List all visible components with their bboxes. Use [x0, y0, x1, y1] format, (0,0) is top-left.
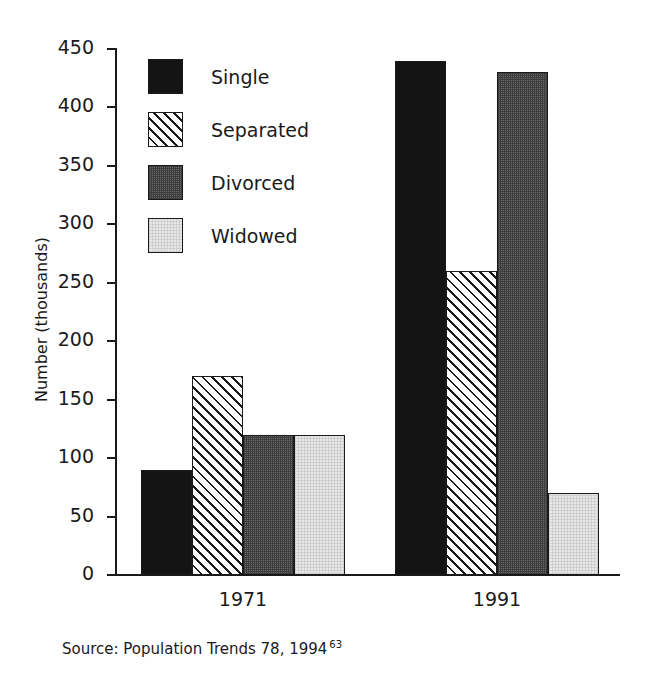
legend-swatch-separated-icon — [148, 112, 183, 147]
source-reference-number: 63 — [329, 639, 342, 650]
legend-label-divorced: Divorced — [211, 172, 295, 194]
legend-item-single[interactable]: Single — [148, 50, 309, 103]
chart-plot-area: 450 400 350 300 250 200 150 100 50 0 Num… — [0, 0, 664, 677]
bar-1971-widowed[interactable] — [294, 435, 345, 575]
source-note-text: Source: Population Trends 78, 1994 — [62, 640, 327, 658]
bar-1971-separated[interactable] — [192, 376, 243, 575]
chart-legend: Single Separated Divorced Widowed — [148, 50, 309, 262]
legend-item-divorced[interactable]: Divorced — [148, 156, 309, 209]
bar-1971-divorced[interactable] — [243, 435, 294, 575]
bar-1991-single[interactable] — [395, 61, 446, 575]
legend-item-separated[interactable]: Separated — [148, 103, 309, 156]
bar-1971-single[interactable] — [141, 470, 192, 575]
bar-1991-divorced[interactable] — [497, 72, 548, 575]
x-label-1971: 1971 — [219, 588, 267, 610]
x-label-1991: 1991 — [473, 588, 521, 610]
legend-swatch-single-icon — [148, 59, 183, 94]
source-note: Source: Population Trends 78, 199463 — [62, 639, 342, 658]
bar-1991-widowed[interactable] — [548, 493, 599, 575]
legend-label-widowed: Widowed — [211, 225, 298, 247]
legend-label-separated: Separated — [211, 119, 309, 141]
legend-item-widowed[interactable]: Widowed — [148, 209, 309, 262]
bar-1991-separated[interactable] — [446, 271, 497, 575]
legend-label-single: Single — [211, 66, 269, 88]
legend-swatch-divorced-icon — [148, 165, 183, 200]
bars-layer — [0, 0, 664, 575]
legend-swatch-widowed-icon — [148, 218, 183, 253]
